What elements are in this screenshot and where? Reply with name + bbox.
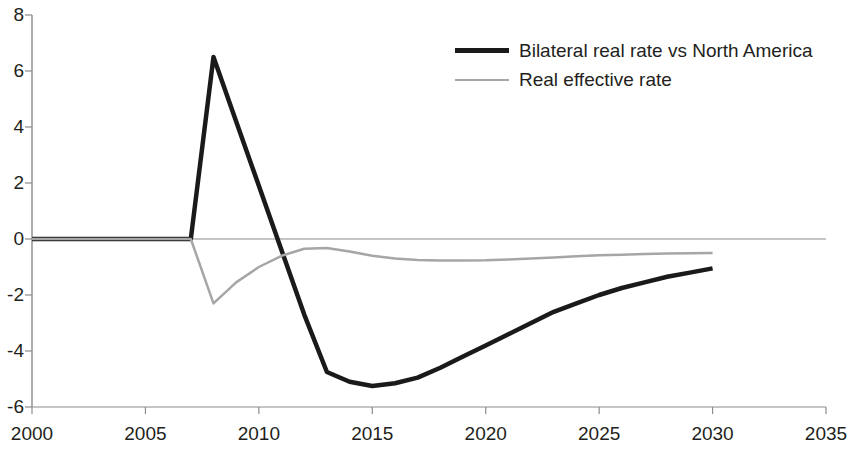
x-tick-label: 2015	[351, 423, 393, 445]
x-tick-label: 2005	[124, 423, 166, 445]
x-tick-label: 2030	[691, 423, 733, 445]
y-tick-label: 4	[0, 116, 24, 138]
y-tick-label: -4	[0, 340, 24, 362]
chart-legend: Bilateral real rate vs North America Rea…	[455, 36, 825, 94]
y-tick-label: 8	[0, 4, 24, 26]
x-tick-label: 2000	[11, 423, 53, 445]
y-tick-label: -6	[0, 396, 24, 418]
legend-label-effective: Real effective rate	[519, 69, 672, 91]
legend-item-bilateral[interactable]: Bilateral real rate vs North America	[455, 36, 825, 65]
y-axis-ticks	[25, 15, 32, 407]
series-line-bilateral	[32, 57, 713, 386]
y-tick-label: 0	[0, 228, 24, 250]
effective-line-swatch	[455, 79, 509, 81]
x-tick-label: 2025	[578, 423, 620, 445]
y-tick-label: 2	[0, 172, 24, 194]
x-tick-label: 2020	[465, 423, 507, 445]
bilateral-line-swatch	[455, 48, 509, 53]
x-tick-label: 2010	[238, 423, 280, 445]
x-axis-ticks	[32, 407, 826, 414]
legend-label-bilateral: Bilateral real rate vs North America	[519, 40, 813, 62]
y-tick-label: 6	[0, 60, 24, 82]
x-tick-label: 2035	[805, 423, 847, 445]
data-series-layer	[32, 57, 713, 386]
legend-item-effective[interactable]: Real effective rate	[455, 65, 825, 94]
y-tick-label: -2	[0, 284, 24, 306]
